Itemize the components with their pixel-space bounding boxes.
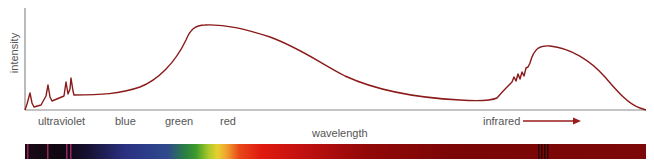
spectrum-bar xyxy=(25,144,646,159)
intensity-curve xyxy=(25,25,646,110)
label-infrared: infrared xyxy=(483,115,520,127)
spectrum-figure: intensity ultraviolet blue green red inf… xyxy=(0,0,654,165)
arrow-right-icon xyxy=(573,118,581,125)
x-axis-label: wavelength xyxy=(312,127,368,139)
label-red: red xyxy=(220,115,236,127)
label-green: green xyxy=(165,115,193,127)
y-axis-label: intensity xyxy=(8,33,20,73)
label-blue: blue xyxy=(115,115,136,127)
intensity-chart xyxy=(0,0,654,165)
label-ultraviolet: ultraviolet xyxy=(38,115,85,127)
